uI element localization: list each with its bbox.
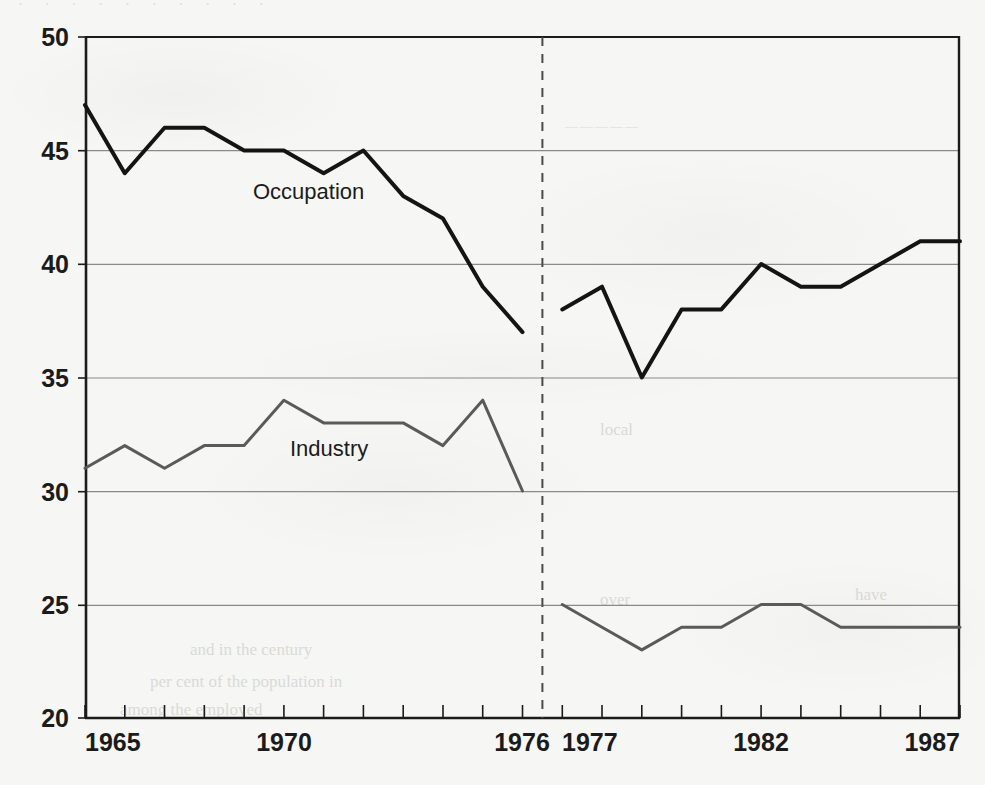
x-axis-label-1982: 1982 bbox=[733, 728, 789, 756]
occupation-line-segment-left bbox=[85, 105, 523, 332]
occupation-series-annotation: Occupation bbox=[253, 179, 364, 204]
x-axis-label-1965: 1965 bbox=[85, 728, 141, 756]
industry-line-segment-right bbox=[562, 605, 960, 650]
y-axis-label-50: 50 bbox=[41, 23, 69, 51]
y-axis-label-30: 30 bbox=[41, 478, 69, 506]
x-axis-label-1976: 1976 bbox=[494, 728, 550, 756]
y-axis-label-25: 25 bbox=[41, 591, 69, 619]
x-axis-label-1987: 1987 bbox=[904, 728, 960, 756]
gridlines bbox=[85, 151, 960, 606]
series-industry bbox=[85, 400, 960, 650]
y-axis-label-45: 45 bbox=[41, 137, 69, 165]
x-axis-label-1977: 1977 bbox=[562, 728, 618, 756]
plot-area bbox=[85, 36, 960, 718]
line-chart: 50 45 40 35 30 25 20 1965 1970 1976 1977… bbox=[0, 0, 985, 785]
y-axis-label-20: 20 bbox=[41, 704, 69, 732]
chart-page: · · · · · · · · · · ————— local over hav… bbox=[0, 0, 985, 785]
x-tick-marks bbox=[85, 705, 960, 718]
y-axis-label-40: 40 bbox=[41, 250, 69, 278]
y-axis-label-35: 35 bbox=[41, 364, 69, 392]
industry-series-annotation: Industry bbox=[290, 436, 368, 461]
x-axis-label-1970: 1970 bbox=[256, 728, 312, 756]
occupation-line-segment-right bbox=[562, 241, 960, 377]
series-occupation bbox=[85, 105, 960, 377]
